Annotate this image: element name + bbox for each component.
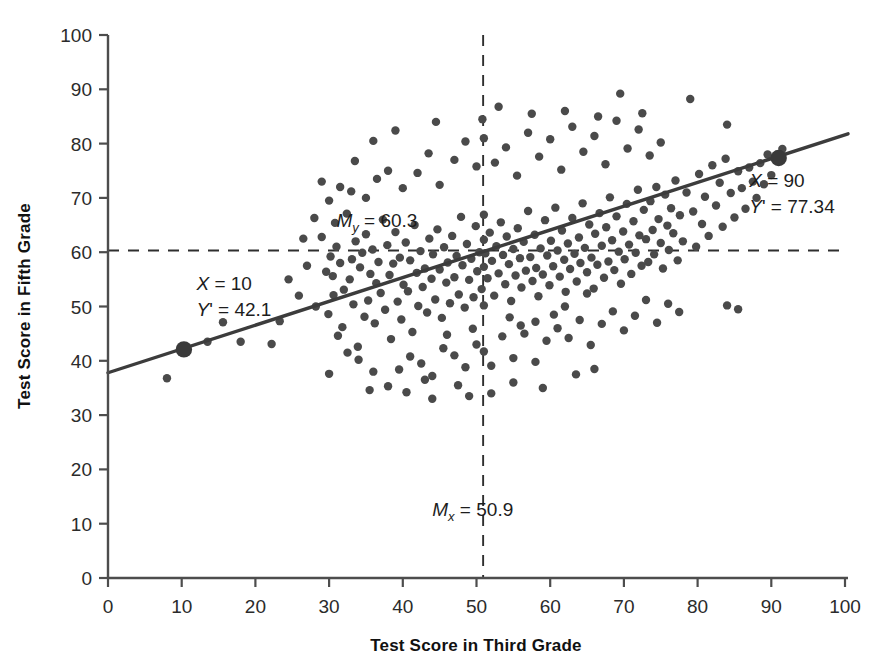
scatter-point <box>712 201 720 209</box>
scatter-point <box>368 245 376 253</box>
scatter-point <box>318 233 326 241</box>
scatter-point <box>534 292 542 300</box>
scatter-point <box>578 199 586 207</box>
x-tick-label: 40 <box>392 596 413 617</box>
scatter-point <box>351 157 359 165</box>
scatter-point <box>627 270 635 278</box>
scatter-point <box>458 261 466 269</box>
scatter-point <box>642 296 650 304</box>
x-tick-label: 60 <box>540 596 561 617</box>
scatter-point <box>551 203 559 211</box>
scatter-point <box>581 244 589 252</box>
scatter-point <box>431 295 439 303</box>
scatter-point <box>708 161 716 169</box>
scatter-point <box>561 107 569 115</box>
scatter-point <box>612 117 620 125</box>
scatter-point <box>324 310 332 318</box>
scatter-point <box>591 230 599 238</box>
scatter-point <box>601 160 609 168</box>
scatter-point <box>340 285 348 293</box>
scatter-point <box>546 135 554 143</box>
scatter-point <box>568 123 576 131</box>
scatter-point <box>303 262 311 270</box>
x-tick-label: 30 <box>319 596 340 617</box>
scatter-point <box>433 225 441 233</box>
scatter-point <box>675 308 683 316</box>
scatter-point <box>513 171 521 179</box>
scatter-point <box>575 316 583 324</box>
scatter-point <box>657 239 665 247</box>
scatter-point <box>648 226 656 234</box>
scatter-point <box>365 386 373 394</box>
scatter-point <box>502 143 510 151</box>
scatter-point <box>480 211 488 219</box>
chart-canvas: 0102030405060708090100 01020304050607080… <box>0 0 875 666</box>
scatter-point <box>318 177 326 185</box>
y-tick-label: 40 <box>71 351 92 372</box>
scatter-point <box>536 244 544 252</box>
scatter-point <box>450 273 458 281</box>
scatter-point <box>615 247 623 255</box>
scatter-point <box>671 176 679 184</box>
scatter-point <box>497 218 505 226</box>
scatter-point <box>374 258 382 266</box>
scatter-point <box>542 337 550 345</box>
scatter-point <box>522 266 530 274</box>
scatter-point <box>477 285 485 293</box>
scatter-point <box>490 291 498 299</box>
scatter-point <box>334 332 342 340</box>
scatter-point <box>547 237 555 245</box>
scatter-point <box>366 270 374 278</box>
scatter-point <box>594 112 602 120</box>
scatter-point <box>472 340 480 348</box>
scatter-point <box>701 193 709 201</box>
scatter-point <box>498 332 506 340</box>
scatter-point <box>429 250 437 258</box>
scatter-point <box>560 256 568 264</box>
scatter-point <box>600 274 608 282</box>
scatter-point <box>376 289 384 297</box>
scatter-point <box>653 319 661 327</box>
x-tick-label: 70 <box>613 596 634 617</box>
scatter-point <box>448 232 456 240</box>
scatter-point <box>517 283 525 291</box>
scatter-point <box>299 234 307 242</box>
x-tick-label: 20 <box>245 596 266 617</box>
scatter-point <box>619 227 627 235</box>
scatter-point <box>509 354 517 362</box>
scatter-point <box>539 270 547 278</box>
scatter-point <box>310 214 318 222</box>
scatter-point <box>528 110 536 118</box>
scatter-point <box>716 179 724 187</box>
scatter-point <box>362 230 370 238</box>
scatter-point <box>419 283 427 291</box>
scatter-point <box>610 266 618 274</box>
scatter-point <box>553 246 561 254</box>
scatter-point <box>676 211 684 219</box>
scatter-point <box>531 358 539 366</box>
scatter-point <box>524 207 532 215</box>
scatter-point <box>385 271 393 279</box>
scatter-point <box>667 204 675 212</box>
scatter-point <box>573 277 581 285</box>
y-tick-label: 20 <box>71 459 92 480</box>
scatter-point <box>738 184 746 192</box>
scatter-point <box>469 293 477 301</box>
scatter-point <box>438 314 446 322</box>
scatter-point <box>679 237 687 245</box>
scatter-point <box>718 222 726 230</box>
scatter-point <box>413 169 421 177</box>
x-tick-label: 80 <box>687 596 708 617</box>
scatter-point <box>650 250 658 258</box>
scatter-point <box>723 120 731 128</box>
scatter-point <box>514 224 522 232</box>
scatter-point <box>381 306 389 314</box>
scatter-point <box>505 313 513 321</box>
scatter-point <box>579 148 587 156</box>
scatter-point <box>583 289 591 297</box>
scatter-point <box>734 305 742 313</box>
scatter-point <box>642 235 650 243</box>
scatter-point <box>421 376 429 384</box>
scatter-point <box>396 253 404 261</box>
scatter-point <box>602 223 610 231</box>
